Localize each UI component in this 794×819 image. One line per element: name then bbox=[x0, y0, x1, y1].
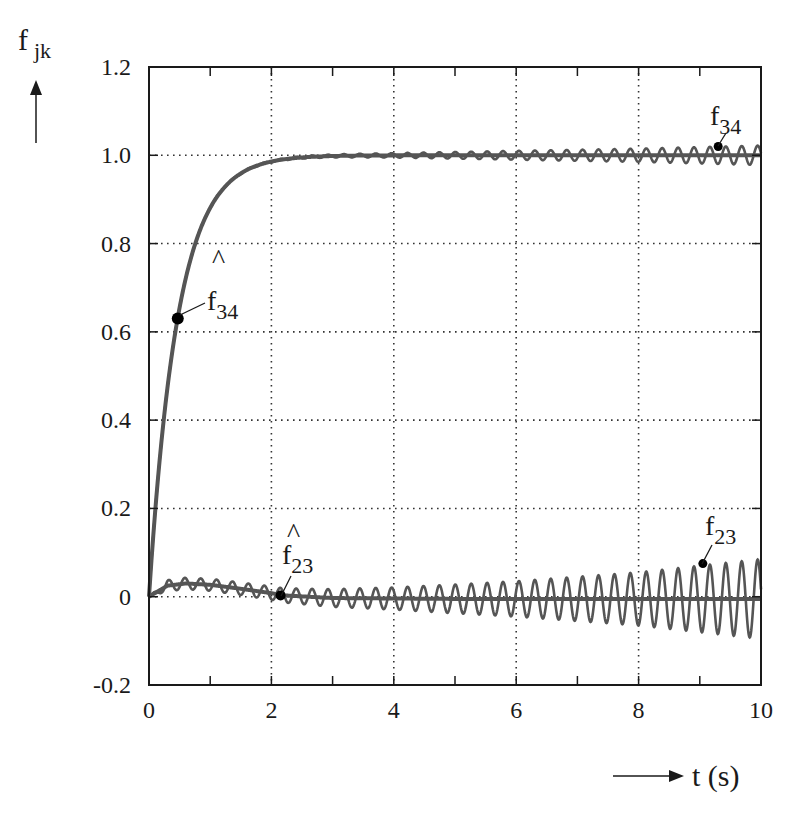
hat-glyph: ^ bbox=[212, 243, 225, 274]
right-arrow-icon bbox=[613, 770, 684, 782]
x-tick-label: 4 bbox=[388, 697, 400, 723]
label-f23: f23 bbox=[702, 510, 736, 564]
label-f23-hat: ^ f23 bbox=[281, 517, 313, 596]
x-axis-label: t (s) bbox=[613, 759, 740, 793]
y-tick-label: 0.6 bbox=[101, 319, 131, 345]
svg-text:f34: f34 bbox=[710, 100, 741, 139]
plot-frame bbox=[149, 67, 761, 685]
svg-text:f23: f23 bbox=[705, 510, 736, 549]
y-tick-label: 0.8 bbox=[101, 231, 131, 257]
label-sub: 23 bbox=[291, 553, 313, 578]
label-f34-hat: ^ f34 bbox=[180, 243, 238, 324]
y-axis-label: fjk bbox=[18, 23, 51, 143]
y-tick-label: 1.2 bbox=[101, 54, 131, 80]
svg-text:fjk: fjk bbox=[18, 23, 51, 63]
label-sub: 34 bbox=[719, 114, 741, 139]
y-tick-label: 1.0 bbox=[101, 142, 131, 168]
label-f34: f34 bbox=[710, 100, 741, 146]
label-sub: 23 bbox=[714, 524, 736, 549]
y-tick-label: 0.2 bbox=[101, 495, 131, 521]
curve-markers bbox=[172, 142, 723, 600]
y-axis-label-sub: jk bbox=[33, 38, 51, 63]
x-axis-label-text: t (s) bbox=[692, 759, 740, 793]
chart-figure: 0246810-0.200.20.40.60.81.01.2 fjk t (s)… bbox=[0, 0, 794, 819]
x-tick-label: 2 bbox=[265, 697, 277, 723]
y-tick-label: -0.2 bbox=[93, 672, 131, 698]
y-tick-label: 0 bbox=[119, 584, 131, 610]
y-tick-label: 0.4 bbox=[101, 407, 131, 433]
axis-ticks bbox=[149, 67, 761, 685]
curve-f34 bbox=[149, 146, 761, 597]
curve-f34-hat bbox=[149, 155, 761, 596]
x-tick-label: 0 bbox=[143, 697, 155, 723]
x-tick-label: 10 bbox=[749, 697, 773, 723]
svg-text:f34: f34 bbox=[207, 285, 238, 324]
data-curves bbox=[149, 146, 761, 638]
x-tick-label: 8 bbox=[633, 697, 645, 723]
marker-f34 bbox=[714, 142, 723, 151]
label-sub: 34 bbox=[216, 299, 238, 324]
x-tick-label: 6 bbox=[510, 697, 522, 723]
grid-lines bbox=[149, 67, 761, 685]
y-axis-label-base: f bbox=[18, 23, 28, 56]
up-arrow-icon bbox=[30, 80, 42, 143]
